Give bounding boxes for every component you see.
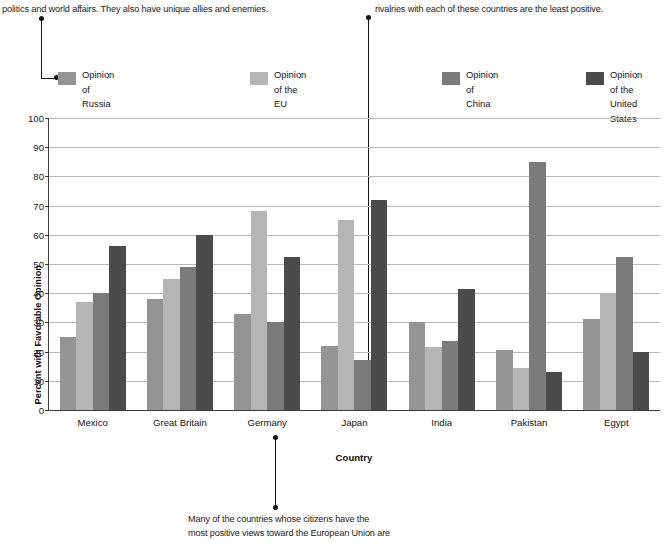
- bar[interactable]: [425, 347, 442, 410]
- bar[interactable]: [600, 293, 617, 410]
- bar-groups: MexicoGreat BritainGermanyJapanIndiaPaki…: [49, 118, 660, 410]
- bar[interactable]: [513, 368, 530, 410]
- y-axis-tick-label: 60: [33, 229, 44, 240]
- bar-group-mexico: Mexico: [49, 118, 136, 410]
- y-axis-tick-label: 10: [33, 375, 44, 386]
- bars: [224, 118, 311, 410]
- bar[interactable]: [267, 322, 284, 410]
- bar[interactable]: [109, 246, 126, 410]
- bar[interactable]: [180, 267, 197, 410]
- annotation-top-right: rivalries with each of these countries a…: [375, 2, 603, 16]
- leader-line-russia-vertical: [41, 19, 42, 79]
- legend-label-eu: Opinion of the EU: [274, 68, 306, 112]
- bar[interactable]: [616, 257, 633, 410]
- bars: [311, 118, 398, 410]
- y-axis-tick-label: 70: [33, 200, 44, 211]
- bar[interactable]: [442, 341, 459, 410]
- bars: [485, 118, 572, 410]
- legend-label-russia: Opinion of Russia: [82, 68, 114, 112]
- y-axis-tick-mark: [45, 410, 49, 411]
- y-axis-tick-label: 40: [33, 288, 44, 299]
- y-axis-tick-label: 30: [33, 317, 44, 328]
- bar[interactable]: [76, 302, 93, 410]
- leader-dot-germany-end: [273, 505, 278, 510]
- bar[interactable]: [234, 314, 251, 410]
- annotation-top-left: politics and world affairs. They also ha…: [2, 2, 268, 16]
- chart-legend: Opinion of Russia Opinion of the EU Opin…: [58, 70, 658, 100]
- x-axis-label-mexico: Mexico: [49, 417, 136, 428]
- leader-dot-japan-start: [366, 15, 371, 20]
- annotation-bottom-line-1: Many of the countries whose citizens hav…: [188, 512, 488, 526]
- bars: [398, 118, 485, 410]
- bar[interactable]: [93, 293, 110, 410]
- bars: [136, 118, 223, 410]
- leader-dot-russia-start: [39, 16, 44, 21]
- legend-label-china: Opinion of China: [466, 68, 498, 112]
- bar-group-india: India: [398, 118, 485, 410]
- x-axis-label-india: India: [398, 417, 485, 428]
- bar[interactable]: [163, 279, 180, 410]
- bar[interactable]: [196, 235, 213, 410]
- plot-area: 0102030405060708090100 MexicoGreat Brita…: [48, 118, 660, 411]
- legend-swatch-china: [442, 72, 460, 85]
- bar-group-germany: Germany: [224, 118, 311, 410]
- leader-dot-germany-start: [273, 435, 278, 440]
- bar-group-great-britain: Great Britain: [136, 118, 223, 410]
- bar-group-pakistan: Pakistan: [485, 118, 572, 410]
- x-axis-label-egypt: Egypt: [573, 417, 660, 428]
- bar[interactable]: [496, 350, 513, 410]
- bar-group-japan: Japan: [311, 118, 398, 410]
- annotation-bottom: Many of the countries whose citizens hav…: [188, 512, 488, 540]
- y-axis-tick-label: 0: [39, 405, 44, 416]
- bar[interactable]: [458, 289, 475, 410]
- x-axis-label-pakistan: Pakistan: [485, 417, 572, 428]
- bar[interactable]: [147, 299, 164, 410]
- bar[interactable]: [60, 337, 77, 410]
- bar[interactable]: [338, 220, 355, 410]
- bar[interactable]: [284, 257, 301, 410]
- x-axis-label-great-britain: Great Britain: [136, 417, 223, 428]
- annotation-bottom-line-2: most positive views toward the European …: [188, 526, 488, 540]
- bar[interactable]: [633, 352, 650, 410]
- x-axis-title: Country: [48, 452, 660, 463]
- y-axis-tick-label: 90: [33, 142, 44, 153]
- x-axis-label-germany: Germany: [224, 417, 311, 428]
- y-axis-tick-label: 50: [33, 259, 44, 270]
- bar-group-egypt: Egypt: [573, 118, 660, 410]
- y-axis-tick-label: 20: [33, 346, 44, 357]
- bars: [573, 118, 660, 410]
- y-axis-tick-label: 80: [33, 171, 44, 182]
- y-axis-tick-label: 100: [28, 113, 44, 124]
- bar[interactable]: [321, 346, 338, 410]
- bar[interactable]: [371, 200, 388, 410]
- bar[interactable]: [409, 322, 426, 410]
- x-axis-label-japan: Japan: [311, 417, 398, 428]
- bar[interactable]: [251, 211, 268, 410]
- bar[interactable]: [583, 319, 600, 410]
- bar[interactable]: [546, 372, 563, 410]
- leader-line-germany-vertical: [275, 438, 276, 508]
- bar[interactable]: [529, 162, 546, 410]
- bars: [49, 118, 136, 410]
- bar[interactable]: [354, 360, 371, 410]
- legend-swatch-united-states: [586, 72, 604, 85]
- legend-swatch-russia: [58, 72, 76, 85]
- legend-swatch-eu: [250, 72, 268, 85]
- bar-chart: Percent with Favorable Opinion 010203040…: [48, 118, 660, 411]
